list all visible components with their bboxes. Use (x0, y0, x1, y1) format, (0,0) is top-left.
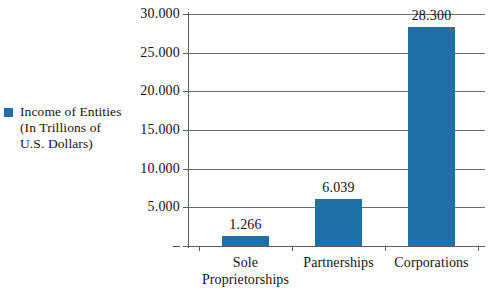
x-axis-category-corporations: Corporations (367, 254, 497, 271)
y-tick-10 (183, 169, 188, 170)
y-tick-25 (183, 53, 188, 54)
bar-value-corporations: 28.300 (412, 8, 452, 24)
y-tick-0 (183, 246, 188, 247)
y-axis-label-20: 20.000 (140, 83, 180, 99)
y-axis-label-zero: – (173, 238, 180, 254)
y-axis-label-15: 15.000 (140, 122, 180, 138)
y-tick-5 (183, 207, 188, 208)
plot-area: 30.000 25.000 20.000 15.000 10.000 5.000… (188, 14, 485, 246)
x-tick-0 (199, 246, 200, 251)
legend-color-swatch-icon (4, 108, 13, 117)
x-tick-3 (478, 246, 479, 251)
y-tick-15 (183, 130, 188, 131)
legend-label: Income of Entities (In Trillions of U.S.… (20, 104, 122, 153)
bar-value-sole-proprietorships: 1.266 (229, 217, 262, 233)
x-tick-1 (292, 246, 293, 251)
y-axis-label-25: 25.000 (140, 45, 180, 61)
bar-sole-proprietorships[interactable] (222, 236, 269, 246)
bar-chart: Income of Entities (In Trillions of U.S.… (0, 0, 500, 301)
y-axis-label-30: 30.000 (140, 6, 180, 22)
y-axis-label-10: 10.000 (140, 161, 180, 177)
x-axis-line (188, 246, 485, 247)
bar-value-partnerships: 6.039 (322, 180, 355, 196)
y-tick-20 (183, 91, 188, 92)
bar-corporations[interactable] (408, 27, 455, 246)
x-tick-2 (385, 246, 386, 251)
y-axis-label-5: 5.000 (148, 199, 181, 215)
y-tick-30 (183, 14, 188, 15)
bar-partnerships[interactable] (315, 199, 362, 246)
